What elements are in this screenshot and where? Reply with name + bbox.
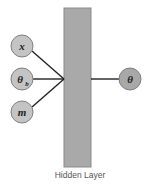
input-node-x: x	[11, 35, 33, 57]
output-label-theta: θ	[127, 73, 133, 85]
network-diagram: x θ b m θ	[0, 0, 151, 188]
output-node-theta: θ	[119, 68, 141, 90]
input-label-x: x	[18, 40, 25, 52]
input-label-theta: θ	[17, 73, 23, 85]
input-node-theta-b: θ b	[11, 68, 33, 90]
input-label-subscript-b: b	[25, 80, 29, 88]
edge-x-hidden	[32, 51, 64, 79]
hidden-layer-caption: Hidden Layer	[50, 170, 110, 180]
hidden-layer-block	[64, 8, 91, 167]
input-label-m: m	[18, 106, 27, 118]
edge-m-hidden	[32, 79, 64, 107]
input-node-m: m	[11, 101, 33, 123]
